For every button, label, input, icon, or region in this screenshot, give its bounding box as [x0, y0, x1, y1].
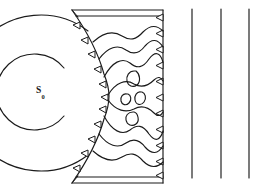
right-boundary-barb-group: [156, 14, 163, 179]
barb-icon: [156, 172, 163, 179]
barb-icon: [156, 14, 163, 21]
barb-icon: [88, 136, 95, 143]
barb-icon: [94, 121, 101, 128]
barb-icon: [156, 126, 163, 133]
barb-icon: [99, 81, 106, 88]
source-label-group: S 0: [36, 85, 45, 100]
barb-icon: [99, 106, 106, 113]
barb-icon: [156, 62, 163, 69]
barb-icon: [73, 165, 80, 172]
closed-loop: [121, 94, 131, 105]
barb-icon: [156, 158, 163, 165]
bow-shock-boundary: [72, 10, 109, 183]
source-label-subscript: 0: [42, 93, 45, 100]
wake-contour: [104, 54, 163, 77]
barb-icon: [81, 150, 88, 157]
figure-container: S 0: [0, 0, 256, 193]
inner-arc: [0, 54, 64, 130]
barb-icon: [156, 94, 163, 101]
wake-contour: [99, 134, 163, 153]
wake-contour: [93, 151, 163, 166]
barb-icon: [101, 94, 108, 101]
barb-icon: [156, 46, 163, 53]
barb-icon: [73, 22, 80, 29]
source-label-base: S: [36, 85, 41, 95]
barb-icon: [81, 37, 88, 44]
wake-contour: [93, 27, 163, 42]
closed-loop: [135, 92, 146, 105]
right-boundary: [156, 10, 163, 183]
wake-contour: [104, 116, 163, 139]
closed-loop-group: [121, 71, 146, 125]
bow-shock-barb-group: [73, 22, 108, 172]
bottom-boundary-group: [72, 176, 163, 183]
barb-icon: [94, 66, 101, 73]
closed-loop: [126, 112, 138, 125]
diagram-canvas: S 0: [0, 0, 256, 193]
wake-contour: [99, 40, 163, 59]
top-boundary-group: [72, 10, 163, 17]
barb-icon: [88, 51, 95, 58]
right-vertical-line-group: [192, 9, 249, 178]
barb-icon: [156, 30, 163, 37]
